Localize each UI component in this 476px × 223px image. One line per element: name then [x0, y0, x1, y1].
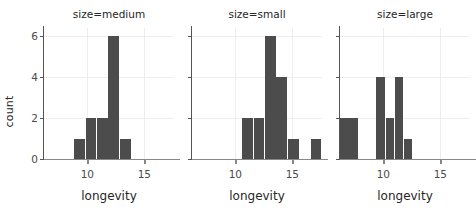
panel-size-large: size=large longevity 1015: [340, 28, 470, 159]
histogram-bar: [108, 36, 119, 159]
y-tick-label: 2: [31, 112, 38, 124]
x-tick: [235, 160, 236, 164]
y-tick: [40, 118, 44, 119]
plot-area: [340, 28, 470, 159]
x-axis-spine: [336, 159, 476, 160]
y-tick: [188, 36, 192, 37]
panel-size-medium: size=medium longevity 02461015: [44, 28, 174, 159]
x-axis-spine: [40, 159, 180, 160]
histogram-bar: [288, 139, 299, 159]
y-tick: [40, 77, 44, 78]
x-axis-label: longevity: [44, 189, 174, 203]
histogram-bar: [404, 139, 413, 159]
y-tick: [188, 118, 192, 119]
histogram-bar: [395, 77, 404, 159]
panel-size-small: size=small longevity 1015: [192, 28, 322, 159]
x-gridline: [440, 28, 441, 159]
x-axis-label: longevity: [192, 189, 322, 203]
panel-title: size=small: [192, 8, 322, 20]
y-tick: [40, 159, 44, 160]
histogram-bar: [86, 118, 97, 159]
y-tick-label: 6: [31, 30, 38, 42]
x-tick: [383, 160, 384, 164]
y-axis-spine: [191, 26, 192, 159]
histogram-bar: [74, 139, 85, 159]
y-gridline: [340, 77, 470, 78]
histogram-bar: [265, 36, 276, 159]
histogram-bar: [386, 118, 395, 159]
histogram-bar: [340, 118, 349, 159]
plot-area: [192, 28, 322, 159]
histogram-bar: [120, 139, 131, 159]
histogram-bar: [254, 118, 265, 159]
x-tick: [292, 160, 293, 164]
y-tick: [188, 77, 192, 78]
x-tick-label: 15: [434, 168, 447, 180]
x-gridline: [235, 28, 236, 159]
y-tick: [336, 36, 340, 37]
x-tick: [87, 160, 88, 164]
histogram-bar: [311, 139, 322, 159]
x-axis-label: longevity: [340, 189, 470, 203]
x-tick-label: 15: [138, 168, 151, 180]
histogram-bar: [276, 77, 287, 159]
y-tick-label: 4: [31, 71, 38, 83]
panel-title: size=medium: [44, 8, 174, 20]
x-axis-spine: [188, 159, 328, 160]
histogram-bar: [349, 118, 358, 159]
y-gridline: [192, 77, 322, 78]
histogram-bar: [376, 77, 385, 159]
histogram-bar: [242, 118, 253, 159]
y-tick: [336, 77, 340, 78]
x-tick-label: 10: [229, 168, 242, 180]
x-tick-label: 10: [81, 168, 94, 180]
histogram-bar: [97, 118, 108, 159]
y-axis-spine: [43, 26, 44, 159]
plot-area: [44, 28, 174, 159]
y-axis-spine: [339, 26, 340, 159]
panel-title: size=large: [340, 8, 470, 20]
y-tick: [40, 36, 44, 37]
x-tick: [144, 160, 145, 164]
y-tick: [336, 159, 340, 160]
y-tick-label: 0: [31, 153, 38, 165]
y-tick: [336, 118, 340, 119]
y-axis-label: count: [0, 0, 18, 223]
y-gridline: [340, 36, 470, 37]
x-tick-label: 10: [377, 168, 390, 180]
y-tick: [188, 159, 192, 160]
x-tick-label: 15: [286, 168, 299, 180]
y-gridline: [192, 36, 322, 37]
y-gridline: [340, 118, 470, 119]
x-gridline: [144, 28, 145, 159]
x-tick: [440, 160, 441, 164]
